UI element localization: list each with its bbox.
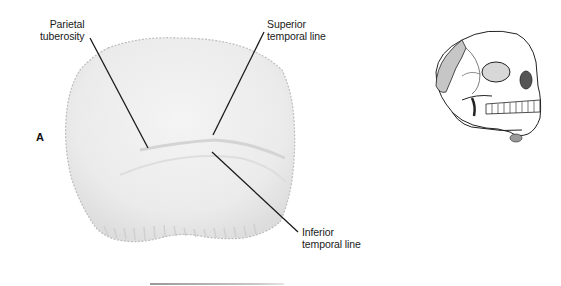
skull-thumbnail-icon [436,31,541,142]
bottom-rule [150,283,284,285]
parietal-bone [66,38,295,242]
label-line-2: temporal line [267,30,326,42]
label-inferior-temporal-line: Inferior temporal line [302,226,361,250]
panel-letter: A [36,131,44,143]
label-line-2: temporal line [302,238,361,250]
label-line-1: Inferior [302,226,361,238]
parietal-bone-illustration [0,0,561,286]
label-line-2: tuberosity [40,30,85,42]
label-line-1: Parietal [40,18,85,30]
label-line-1: Superior [267,18,326,30]
label-superior-temporal-line: Superior temporal line [267,18,326,42]
label-parietal-tuberosity: Parietal tuberosity [40,18,85,42]
